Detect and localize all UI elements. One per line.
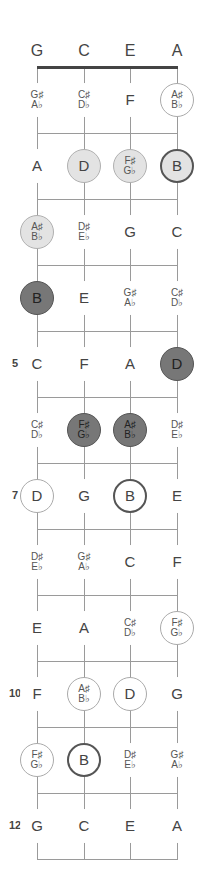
note-label: G xyxy=(20,809,54,843)
note-flat-name: D♭ xyxy=(171,298,183,308)
note-label: C♯D♭ xyxy=(160,281,194,315)
open-string-label: G xyxy=(22,42,52,60)
note-label: G♯A♭ xyxy=(67,545,101,579)
note-flat-name: G♭ xyxy=(78,430,91,440)
open-string-label: C xyxy=(69,42,99,60)
note-name: B xyxy=(125,488,135,504)
note-label: C♯D♭ xyxy=(113,611,147,645)
note-label: G♯A♭ xyxy=(160,743,194,777)
note-marker: F♯G♭ xyxy=(160,611,194,645)
note-name: E xyxy=(79,290,89,306)
fret-line-6 xyxy=(37,463,178,464)
note-flat-name: A♭ xyxy=(171,760,183,770)
note-name: F xyxy=(172,554,181,570)
note-flat-name: G♭ xyxy=(171,628,184,638)
note-label: F xyxy=(20,677,54,711)
open-string-label: A xyxy=(162,42,192,60)
note-name: D xyxy=(125,686,136,702)
note-name: G xyxy=(171,686,183,702)
note-label: E xyxy=(67,281,101,315)
note-label: D♯E♭ xyxy=(160,413,194,447)
fret-line-7 xyxy=(37,529,178,530)
ukulele-fretboard-diagram: GCEA571012G♯A♭C♯D♭FA♯B♭ADF♯G♭BA♯B♭D♯E♭GC… xyxy=(0,0,198,878)
note-marker: D xyxy=(20,479,54,513)
note-name: B xyxy=(32,290,42,306)
note-label: D♯E♭ xyxy=(20,545,54,579)
note-marker: A♯B♭ xyxy=(113,413,147,447)
note-name: C xyxy=(32,356,43,372)
note-flat-name: A♭ xyxy=(78,562,90,572)
note-label: G xyxy=(113,215,147,249)
note-flat-name: G♭ xyxy=(124,166,137,176)
note-name: D xyxy=(32,488,43,504)
note-flat-name: B♭ xyxy=(31,232,43,242)
note-marker: D xyxy=(67,149,101,183)
note-marker: A♯B♭ xyxy=(160,83,194,117)
note-marker: D xyxy=(160,347,194,381)
note-label: D♯E♭ xyxy=(113,743,147,777)
note-label: F xyxy=(160,545,194,579)
note-flat-name: D♭ xyxy=(78,100,90,110)
note-name: A xyxy=(79,620,89,636)
note-flat-name: E♭ xyxy=(31,562,43,572)
note-name: G xyxy=(78,488,90,504)
note-label: G♯A♭ xyxy=(113,281,147,315)
note-flat-name: E♭ xyxy=(78,232,90,242)
fret-line-8 xyxy=(37,595,178,596)
note-label: C♯D♭ xyxy=(67,83,101,117)
fret-line-9 xyxy=(37,661,178,662)
fret-line-5 xyxy=(37,397,178,398)
note-name: D xyxy=(172,356,183,372)
note-name: F xyxy=(32,686,41,702)
note-marker: F♯G♭ xyxy=(20,743,54,777)
note-name: A xyxy=(172,818,182,834)
note-label: A xyxy=(113,347,147,381)
note-name: F xyxy=(125,92,134,108)
note-name: B xyxy=(79,752,89,768)
note-flat-name: A♭ xyxy=(124,298,136,308)
fret-line-1 xyxy=(37,133,178,134)
note-label: C xyxy=(67,809,101,843)
note-label: A xyxy=(67,611,101,645)
note-label: E xyxy=(20,611,54,645)
note-name: C xyxy=(79,818,90,834)
fret-line-11 xyxy=(37,793,178,794)
note-marker: D xyxy=(113,677,147,711)
note-label: C xyxy=(160,215,194,249)
note-name: E xyxy=(32,620,42,636)
note-name: D xyxy=(79,158,90,174)
note-marker: F♯G♭ xyxy=(67,413,101,447)
note-name: G xyxy=(124,224,136,240)
note-label: F xyxy=(67,347,101,381)
note-marker: A♯B♭ xyxy=(67,677,101,711)
note-name: C xyxy=(125,554,136,570)
note-flat-name: B♭ xyxy=(124,430,136,440)
note-name: F xyxy=(79,356,88,372)
note-flat-name: E♭ xyxy=(171,430,183,440)
nut xyxy=(37,66,178,69)
note-marker: B xyxy=(20,281,54,315)
note-label: G xyxy=(67,479,101,513)
note-label: A xyxy=(20,149,54,183)
fret-line-2 xyxy=(37,199,178,200)
note-label: G xyxy=(160,677,194,711)
note-label: D♯E♭ xyxy=(67,215,101,249)
note-flat-name: D♭ xyxy=(124,628,136,638)
note-marker: A♯B♭ xyxy=(20,215,54,249)
note-marker: F♯G♭ xyxy=(113,149,147,183)
note-name: G xyxy=(31,818,43,834)
note-label: C♯D♭ xyxy=(20,413,54,447)
note-label: F xyxy=(113,83,147,117)
note-flat-name: B♭ xyxy=(171,100,183,110)
note-name: A xyxy=(32,158,42,174)
open-string-label: E xyxy=(115,42,145,60)
note-name: E xyxy=(125,818,135,834)
note-flat-name: E♭ xyxy=(124,760,136,770)
note-name: A xyxy=(125,356,135,372)
note-label: E xyxy=(160,479,194,513)
note-marker: B xyxy=(67,743,101,777)
note-label: A xyxy=(160,809,194,843)
note-label: C xyxy=(113,545,147,579)
note-flat-name: B♭ xyxy=(78,694,90,704)
note-name: E xyxy=(172,488,182,504)
